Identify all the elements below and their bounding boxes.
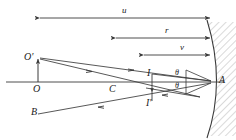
dimension-label-u: u bbox=[122, 6, 127, 15]
dimension-label-r: r bbox=[165, 26, 169, 35]
diagram-vector-layer bbox=[0, 0, 236, 140]
optics-diagram-canvas: u r v O' O B C I I' A θ θ bbox=[0, 0, 236, 140]
point-label-O-prime: O' bbox=[24, 52, 33, 62]
dimension-label-v: v bbox=[180, 43, 184, 52]
reflected-ray-through-image bbox=[146, 88, 200, 97]
point-label-I-prime: I' bbox=[146, 98, 151, 108]
point-label-C: C bbox=[109, 84, 116, 94]
angle-label-theta-incidence: θ bbox=[175, 69, 179, 77]
point-label-A: A bbox=[219, 75, 225, 85]
reflected-ray-A-to-B bbox=[38, 83, 211, 114]
point-label-I: I bbox=[147, 68, 150, 78]
point-label-B: B bbox=[31, 107, 37, 117]
angle-label-theta-reflection: θ bbox=[175, 82, 179, 90]
point-label-O: O bbox=[33, 84, 40, 94]
